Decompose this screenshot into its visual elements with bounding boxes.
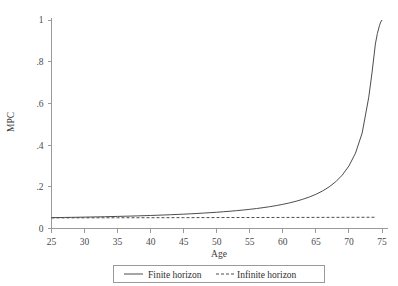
y-tick-label: 1 bbox=[39, 15, 44, 25]
x-tick-label: 40 bbox=[146, 237, 156, 247]
mpc-age-line-chart: 0.2.4.6.81 MPC 2530354045505560657075 Ag… bbox=[0, 0, 398, 286]
chart-figure: 0.2.4.6.81 MPC 2530354045505560657075 Ag… bbox=[0, 0, 398, 286]
x-axis-title: Age bbox=[211, 249, 227, 259]
y-tick-label: .4 bbox=[36, 141, 43, 151]
x-tick-label: 50 bbox=[212, 237, 222, 247]
x-tick-label: 55 bbox=[245, 237, 255, 247]
x-tick-label: 60 bbox=[278, 237, 288, 247]
x-tick-label: 45 bbox=[179, 237, 189, 247]
x-tick-label: 30 bbox=[80, 237, 90, 247]
x-tick-label: 35 bbox=[113, 237, 123, 247]
x-tick-label: 25 bbox=[47, 237, 57, 247]
y-tick-label: .6 bbox=[36, 99, 43, 109]
chart-background bbox=[0, 0, 398, 286]
legend-label-infinite-horizon: Infinite horizon bbox=[237, 270, 297, 280]
x-tick-label: 70 bbox=[344, 237, 354, 247]
x-tick-label: 65 bbox=[311, 237, 321, 247]
legend: Finite horizon Infinite horizon bbox=[114, 266, 325, 283]
x-tick-label: 75 bbox=[377, 237, 387, 247]
y-axis-title: MPC bbox=[6, 112, 16, 132]
y-tick-label: 0 bbox=[39, 224, 44, 234]
y-tick-label: .8 bbox=[36, 57, 43, 67]
legend-label-finite-horizon: Finite horizon bbox=[148, 270, 202, 280]
y-tick-label: .2 bbox=[36, 182, 43, 192]
